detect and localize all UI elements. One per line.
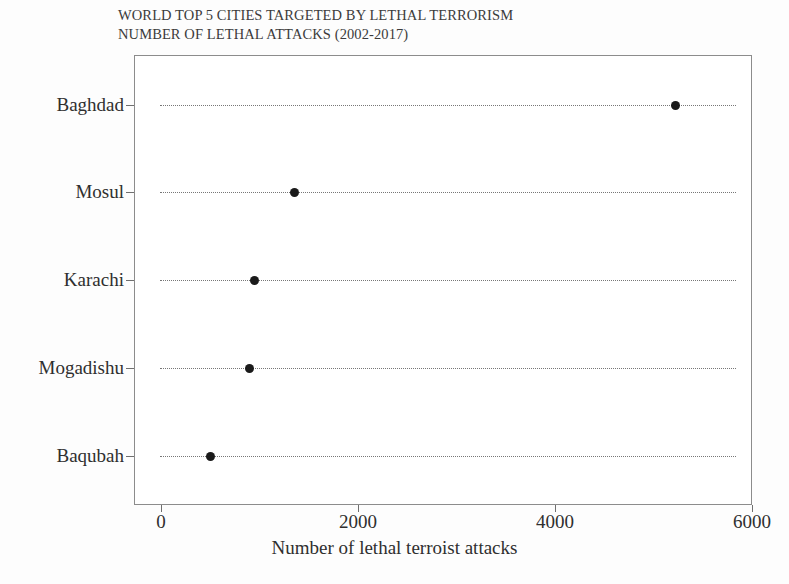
data-point [671, 101, 680, 110]
y-axis-tick-label: Karachi [64, 269, 124, 291]
chart-subtitle-line-2: NUMBER OF LETHAL ATTACKS (2002-2017) [118, 25, 718, 44]
gridline-row [160, 456, 736, 457]
x-axis-tick-label: 4000 [536, 511, 574, 533]
x-axis-tick-label: 0 [156, 511, 166, 533]
y-axis-tick-mark [126, 368, 134, 369]
chart-figure: WORLD TOP 5 CITIES TARGETED BY LETHAL TE… [0, 0, 789, 584]
x-axis-tick-label: 2000 [339, 511, 377, 533]
chart-title-block: WORLD TOP 5 CITIES TARGETED BY LETHAL TE… [118, 6, 718, 44]
x-axis-title: Number of lethal terroist attacks [0, 537, 789, 559]
y-axis-tick-mark [126, 105, 134, 106]
y-axis-tick-mark [126, 456, 134, 457]
y-axis-tick-mark [126, 280, 134, 281]
y-axis-tick-label: Mogadishu [39, 357, 125, 379]
data-point [245, 364, 254, 373]
gridline-row [160, 280, 736, 281]
data-point [290, 188, 299, 197]
x-axis-tick-label: 6000 [733, 511, 771, 533]
gridline-row [160, 105, 736, 106]
y-axis-tick-label: Baghdad [56, 94, 124, 116]
y-axis-tick-label: Mosul [75, 181, 124, 203]
y-axis-tick-mark [126, 192, 134, 193]
gridline-row [160, 192, 736, 193]
data-point [206, 452, 215, 461]
chart-title-line-1: WORLD TOP 5 CITIES TARGETED BY LETHAL TE… [118, 6, 718, 25]
data-point [250, 276, 259, 285]
y-axis-tick-label: Baqubah [56, 445, 124, 467]
